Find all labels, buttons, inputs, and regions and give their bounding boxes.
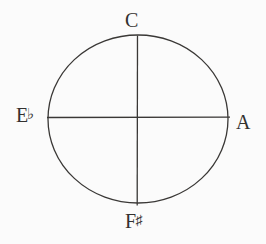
sharp-sign-icon: ♯: [135, 213, 142, 228]
note-letter-right: A: [236, 111, 250, 133]
note-label-bottom: F♯: [125, 211, 142, 231]
note-label-top: C: [125, 10, 137, 30]
note-letter-top: C: [125, 9, 138, 31]
note-label-right: A: [236, 112, 249, 132]
diagram-canvas: C E♭ A F♯: [0, 0, 266, 244]
flat-sign-icon: ♭: [27, 106, 34, 122]
note-label-left: E♭: [16, 105, 34, 125]
circle-diagram-graphic: [0, 0, 266, 244]
